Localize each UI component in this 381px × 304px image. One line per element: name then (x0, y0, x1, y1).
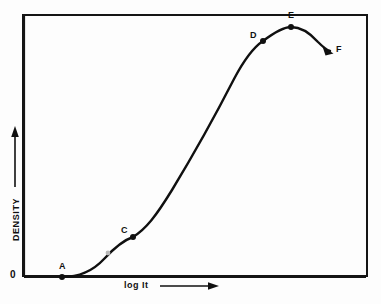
data-point-marker-a (59, 274, 65, 280)
point-label-c: C (121, 226, 128, 235)
data-point-marker-d (260, 38, 266, 44)
up-arrow-icon (11, 126, 19, 187)
point-label-f: F (336, 45, 342, 54)
density-curve (62, 27, 330, 277)
x-axis-label: log It (124, 281, 149, 290)
curve-drawing-surface (0, 0, 381, 304)
curve-end-arrowhead-icon (323, 47, 334, 56)
right-arrow-icon (160, 282, 219, 290)
point-label-e: E (288, 11, 294, 20)
characteristic-curve-figure: 0 A C D E F log It DENSITY (0, 0, 381, 304)
point-label-d: D (250, 31, 257, 40)
data-point-marker-b (106, 251, 111, 256)
y-axis-label: DENSITY (12, 190, 21, 250)
data-point-marker-c (130, 234, 136, 240)
data-point-marker-e (288, 24, 294, 30)
origin-label: 0 (10, 270, 16, 280)
point-label-a: A (59, 262, 66, 271)
